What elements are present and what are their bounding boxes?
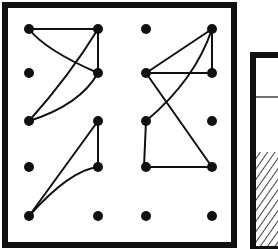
connector-lines [29, 29, 212, 216]
main-frame [5, 5, 234, 245]
hatched-region [256, 152, 278, 246]
side-panel [253, 55, 278, 249]
dot-grid-diagram [0, 0, 278, 249]
